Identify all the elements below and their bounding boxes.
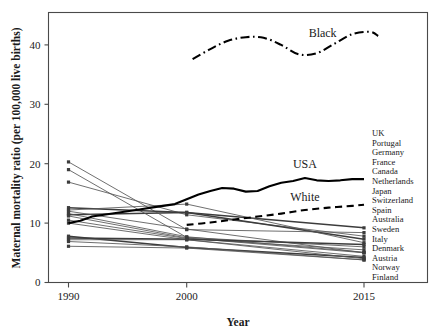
- data-point-marker: [185, 211, 188, 214]
- data-point-marker: [67, 219, 70, 222]
- y-tick-label: 40: [30, 39, 42, 51]
- country-list-item: Spain: [372, 205, 392, 215]
- data-point-marker: [67, 214, 70, 217]
- y-axis-title: Maternal mortality ratio (per 100,000 li…: [10, 27, 23, 268]
- data-point-marker: [67, 181, 70, 184]
- x-axis-title: Year: [227, 316, 250, 328]
- annotation-black: Black: [309, 26, 337, 40]
- x-tick-label: 2000: [176, 290, 199, 302]
- data-point-marker: [362, 226, 365, 229]
- y-tick-label: 20: [30, 158, 42, 170]
- country-list-item: Canada: [372, 166, 398, 176]
- country-list-item: Netherlands: [372, 176, 414, 186]
- chart-canvas: 010203040 199020002015 BlackUSAWhite UKP…: [0, 0, 439, 332]
- country-list-item: Switzerland: [372, 195, 414, 205]
- data-point-marker: [362, 248, 365, 251]
- country-list-item: Australia: [372, 214, 404, 224]
- data-point-marker: [185, 238, 188, 241]
- x-tick-label: 2015: [353, 290, 376, 302]
- country-list-item: Sweden: [372, 224, 400, 234]
- country-list-item: Norway: [372, 262, 400, 272]
- y-tick-label: 10: [30, 217, 42, 229]
- country-list-item: Japan: [372, 186, 392, 196]
- highlight-line-black: [193, 32, 379, 59]
- country-line-uk: [69, 212, 365, 227]
- data-point-marker: [362, 231, 365, 234]
- chart-figure: 010203040 199020002015 BlackUSAWhite UKP…: [0, 0, 439, 332]
- country-list-item: Denmark: [372, 243, 405, 253]
- annotation-usa: USA: [293, 157, 317, 171]
- country-list-item: Portugal: [372, 138, 402, 148]
- country-list-item: Finland: [372, 272, 399, 282]
- x-tick-label: 1990: [58, 290, 81, 302]
- country-list-item: Italy: [372, 234, 388, 244]
- data-point-marker: [362, 251, 365, 254]
- data-point-marker: [67, 240, 70, 243]
- data-point-marker: [185, 202, 188, 205]
- data-point-marker: [67, 168, 70, 171]
- data-point-marker: [185, 246, 188, 249]
- data-point-marker: [67, 160, 70, 163]
- country-list-item: France: [372, 157, 396, 167]
- y-tick-label: 0: [35, 276, 41, 288]
- annotation-white: White: [290, 190, 319, 204]
- country-series-group: [69, 162, 365, 260]
- data-point-marker: [362, 258, 365, 261]
- country-label-list: UKPortugalGermanyFranceCanadaNetherlands…: [372, 128, 414, 282]
- country-list-item: Austria: [372, 253, 397, 263]
- data-point-marker: [362, 243, 365, 246]
- country-list-item: UK: [372, 128, 385, 138]
- country-list-item: Germany: [372, 147, 405, 157]
- y-axis-ticks: 010203040: [30, 39, 49, 289]
- y-tick-label: 30: [30, 98, 42, 110]
- data-point-marker: [362, 238, 365, 241]
- x-axis-ticks: 199020002015: [58, 283, 376, 302]
- data-point-marker: [185, 227, 188, 230]
- data-point-marker: [67, 245, 70, 248]
- data-point-marker: [362, 235, 365, 238]
